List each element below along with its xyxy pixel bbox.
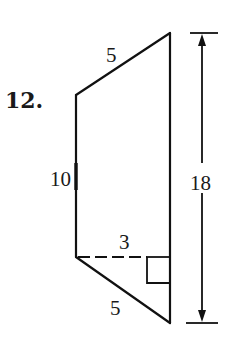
trapezoid-diagram: 12. 5 10 3 5 18 [0,0,234,347]
arrow-up-icon [198,34,206,46]
overall-height-label: 18 [190,171,211,195]
dashed-height-label: 3 [119,230,130,254]
left-side-label: 10 [50,167,71,191]
right-angle-icon [147,257,170,283]
top-slant-label: 5 [106,43,117,67]
top-slant-edge [76,33,170,95]
arrow-down-icon [198,310,206,322]
bottom-slant-edge [76,257,170,323]
trapezoid-shape [76,33,170,323]
bottom-slant-label: 5 [110,296,121,320]
problem-number: 12. [5,87,43,113]
